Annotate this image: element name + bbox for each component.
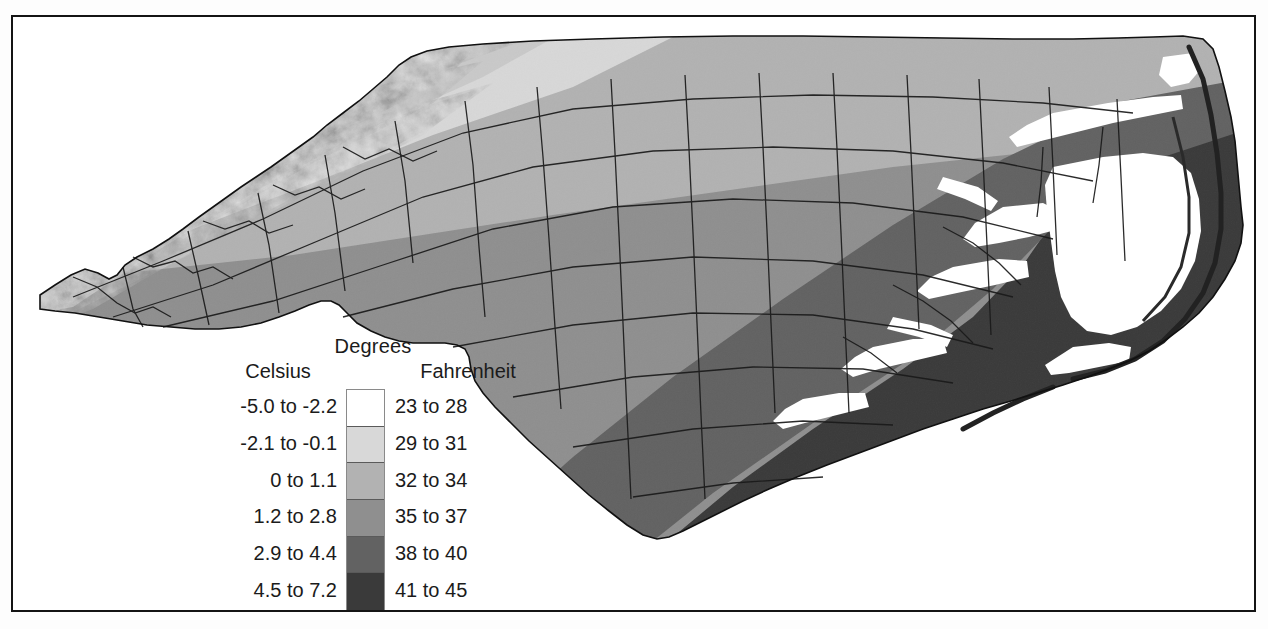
legend-swatch-2: [347, 427, 384, 464]
legend-fahrenheit-6: 41 to 45: [395, 579, 535, 602]
legend-swatch-5: [347, 537, 384, 574]
legend-fahrenheit-4: 35 to 37: [395, 505, 535, 528]
legend-subtitle-fahrenheit: Fahrenheit: [393, 360, 543, 383]
map-legend: Degrees Celsius Fahrenheit -5.0 to -2.2 …: [203, 335, 543, 620]
legend-celsius-5: 2.9 to 4.4: [203, 542, 337, 565]
legend-fahrenheit-2: 29 to 31: [395, 432, 535, 455]
legend-fahrenheit-5: 38 to 40: [395, 542, 535, 565]
legend-swatch-6: [347, 573, 384, 610]
legend-fahrenheit-1: 23 to 28: [395, 395, 535, 418]
legend-celsius-1: -5.0 to -2.2: [203, 395, 337, 418]
legend-swatch-4: [347, 500, 384, 537]
figure-page: Degrees Celsius Fahrenheit -5.0 to -2.2 …: [0, 0, 1268, 629]
legend-fahrenheit-3: 32 to 34: [395, 469, 535, 492]
map-svg: [13, 17, 1254, 610]
legend-celsius-6: 4.5 to 7.2: [203, 579, 337, 602]
legend-celsius-3: 0 to 1.1: [203, 469, 337, 492]
legend-swatch-1: [347, 390, 384, 427]
legend-swatch-3: [347, 463, 384, 500]
legend-title: Degrees: [203, 335, 543, 358]
legend-celsius-2: -2.1 to -0.1: [203, 432, 337, 455]
north-carolina-map: [13, 17, 1254, 610]
legend-celsius-4: 1.2 to 2.8: [203, 505, 337, 528]
legend-swatch-column: [346, 389, 385, 610]
figure-frame: Degrees Celsius Fahrenheit -5.0 to -2.2 …: [11, 15, 1256, 612]
legend-subtitle-celsius: Celsius: [203, 360, 353, 383]
